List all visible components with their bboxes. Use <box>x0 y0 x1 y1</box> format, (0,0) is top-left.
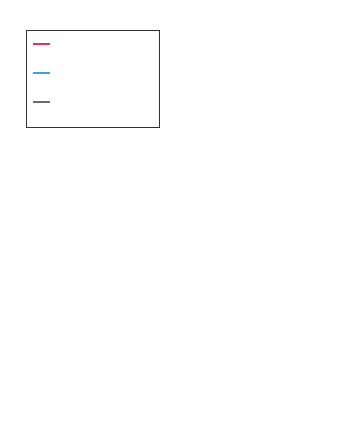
phylogenetic-tree <box>0 0 362 436</box>
